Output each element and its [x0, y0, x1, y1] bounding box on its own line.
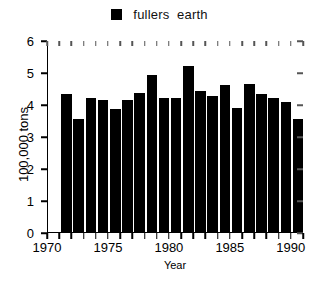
- y-tick-mark: [41, 200, 47, 202]
- x-tick-label: 1975: [93, 240, 122, 255]
- x-tick-mark: [290, 233, 292, 239]
- x-tick-mark-top: [71, 41, 73, 46]
- bar: [268, 98, 279, 232]
- x-tick-mark: [193, 233, 195, 239]
- x-tick-mark: [58, 233, 60, 239]
- x-tick-mark: [71, 233, 73, 239]
- bar: [171, 98, 182, 232]
- x-tick-mark-top: [156, 41, 158, 46]
- y-tick-mark-right: [297, 200, 303, 202]
- chart-legend: fullers earth: [0, 2, 319, 26]
- x-tick-mark-top: [180, 41, 182, 46]
- x-tick-mark-top: [107, 41, 109, 46]
- bar: [98, 100, 109, 232]
- bar: [232, 108, 243, 232]
- x-tick-mark-top: [119, 41, 121, 46]
- x-tick-mark: [217, 233, 219, 239]
- x-tick-mark: [119, 233, 121, 239]
- y-tick-mark: [41, 136, 47, 138]
- x-tick-mark: [83, 233, 85, 239]
- x-tick-mark-top: [217, 41, 219, 46]
- figure-bar-chart: fullers earth 0123456 100,000 tons Year …: [0, 0, 319, 285]
- x-tick-mark: [144, 233, 146, 239]
- x-tick-mark: [107, 233, 109, 239]
- x-tick-mark-top: [168, 41, 170, 46]
- legend-swatch-icon: [111, 9, 122, 20]
- y-tick-mark-right: [297, 168, 303, 170]
- bar: [86, 98, 97, 232]
- bar: [183, 66, 194, 232]
- y-tick-mark-right: [297, 136, 303, 138]
- x-tick-mark: [46, 233, 48, 239]
- bar: [159, 98, 170, 232]
- bar: [195, 91, 206, 232]
- x-tick-mark-top: [290, 41, 292, 46]
- x-tick-label: 1990: [276, 240, 305, 255]
- y-axis-title: 100,000 tons: [16, 75, 31, 215]
- y-tick-mark: [41, 104, 47, 106]
- bar: [110, 109, 121, 232]
- x-tick-mark-top: [266, 41, 268, 46]
- bar: [122, 100, 133, 232]
- x-tick-mark: [180, 233, 182, 239]
- x-tick-label: 1985: [215, 240, 244, 255]
- x-tick-mark: [229, 233, 231, 239]
- bar: [147, 75, 158, 232]
- bar-series: [48, 41, 303, 232]
- y-tick-mark-right: [297, 72, 303, 74]
- x-tick-mark: [266, 233, 268, 239]
- x-tick-mark-top: [46, 41, 48, 46]
- x-tick-mark-top: [278, 41, 280, 46]
- x-tick-mark-top: [241, 41, 243, 46]
- y-tick-mark-right: [297, 104, 303, 106]
- bar: [244, 84, 255, 232]
- x-tick-mark-top: [83, 41, 85, 46]
- x-tick-mark-top: [193, 41, 195, 46]
- x-tick-mark-top: [58, 41, 60, 46]
- x-tick-mark: [205, 233, 207, 239]
- x-tick-label: 1980: [154, 240, 183, 255]
- bar: [73, 119, 84, 232]
- x-tick-mark: [95, 233, 97, 239]
- bar: [256, 94, 267, 232]
- bar: [281, 102, 292, 232]
- x-tick-mark: [156, 233, 158, 239]
- y-tick-mark: [41, 168, 47, 170]
- x-tick-mark: [168, 233, 170, 239]
- x-tick-mark-top: [253, 41, 255, 46]
- y-tick-label: 0: [27, 226, 34, 241]
- bar: [220, 85, 231, 232]
- plot-area: [47, 41, 303, 233]
- bar: [207, 96, 218, 232]
- x-tick-mark-top: [132, 41, 134, 46]
- x-tick-mark: [241, 233, 243, 239]
- bar: [134, 93, 145, 232]
- x-tick-mark-top: [302, 41, 304, 46]
- x-tick-label: 1970: [33, 240, 62, 255]
- y-tick-mark: [41, 72, 47, 74]
- legend-label: fullers earth: [133, 7, 207, 22]
- x-tick-mark: [253, 233, 255, 239]
- x-tick-mark-top: [205, 41, 207, 46]
- x-axis-title: Year: [47, 259, 303, 271]
- x-tick-mark-top: [229, 41, 231, 46]
- bar: [61, 94, 72, 232]
- x-tick-mark-top: [95, 41, 97, 46]
- x-tick-mark-top: [144, 41, 146, 46]
- x-tick-mark: [132, 233, 134, 239]
- x-tick-mark: [278, 233, 280, 239]
- y-tick-label: 6: [27, 34, 34, 49]
- x-tick-mark: [302, 233, 304, 239]
